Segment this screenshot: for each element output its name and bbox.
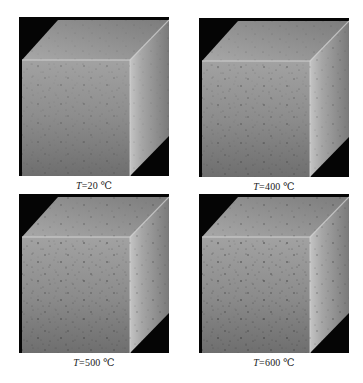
caption-unit: ℃ — [283, 181, 294, 192]
cube-image-t400 — [199, 18, 349, 177]
caption-t20: T=20 ℃ — [19, 180, 169, 191]
cube-image-t20 — [19, 17, 169, 176]
caption-value: 20 — [88, 180, 98, 191]
caption-value: 500 — [85, 357, 101, 368]
caption-t600: T=600 ℃ — [199, 357, 349, 368]
cube-render — [19, 194, 169, 353]
cube-render — [19, 17, 169, 176]
cube-render — [199, 194, 349, 353]
caption-t500: T=500 ℃ — [19, 357, 169, 368]
caption-unit: ℃ — [283, 357, 294, 368]
caption-unit: ℃ — [101, 180, 112, 191]
cube-image-t600 — [199, 194, 349, 353]
caption-t400: T=400 ℃ — [199, 181, 349, 192]
cube-image-t500 — [19, 194, 169, 353]
cube-render — [199, 18, 349, 177]
caption-value: 400 — [265, 181, 281, 192]
caption-unit: ℃ — [103, 357, 114, 368]
caption-value: 600 — [265, 357, 281, 368]
